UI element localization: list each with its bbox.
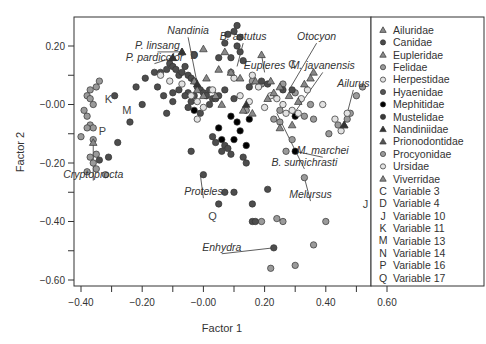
legend-label: Canidae	[393, 36, 432, 48]
annotation-label: Eupleres	[244, 59, 286, 71]
scatter-chart: 0.20−0.00−0.20−0.40−0.60 −0.40−0.20−0.00…	[0, 0, 486, 344]
circle-marker-icon	[277, 107, 283, 113]
circle-marker-icon	[182, 93, 188, 99]
circle-marker-icon	[335, 122, 341, 128]
variable-letter-j: J	[363, 198, 369, 210]
circle-marker-icon	[240, 154, 246, 160]
y-axis-title: Factor 2	[14, 132, 26, 172]
circle-marker-icon	[200, 172, 206, 178]
legend-label: Variable 3	[393, 185, 440, 197]
variable-letter-q: Q	[208, 210, 217, 222]
y-tick-label: −0.20	[40, 158, 66, 169]
open-circle-marker-icon	[231, 75, 237, 81]
circle-marker-icon	[353, 93, 359, 99]
circle-marker-icon	[225, 145, 231, 151]
circle-marker-icon	[249, 201, 255, 207]
y-tick-label: −0.00	[40, 99, 66, 110]
circle-marker-icon	[163, 110, 169, 116]
open-circle-marker-icon	[194, 116, 200, 122]
x-tick-label: −0.20	[130, 297, 156, 308]
legend-letter-marker: K	[379, 222, 386, 234]
circle-marker-icon	[380, 40, 385, 45]
legend-letter-marker: J	[380, 210, 385, 222]
open-circle-marker-icon	[274, 95, 280, 101]
circle-marker-icon	[163, 66, 169, 72]
circle-marker-icon	[231, 189, 237, 195]
open-circle-marker-icon	[283, 110, 289, 116]
legend-label: Variable 13	[393, 235, 446, 247]
legend-label: Variable 14	[393, 247, 446, 259]
circle-marker-icon	[234, 22, 240, 28]
x-tick-label: 0.20	[255, 297, 275, 308]
circle-marker-icon	[274, 215, 280, 221]
legend-label: Variable 17	[393, 272, 446, 284]
legend-label: Mephitidae	[393, 98, 445, 110]
circle-marker-icon	[197, 110, 203, 116]
circle-marker-icon	[234, 43, 240, 49]
annotation-label: M. javanensis	[291, 59, 356, 71]
circle-marker-icon	[206, 101, 212, 107]
legend-label: Ailuridae	[393, 24, 434, 36]
triangle-marker-icon	[288, 121, 296, 128]
annotation-label: P. pardicolor	[126, 51, 184, 63]
circle-marker-icon	[90, 160, 96, 166]
circle-marker-icon	[252, 218, 258, 224]
circle-marker-icon	[301, 113, 307, 119]
circle-marker-icon	[237, 128, 243, 134]
circle-marker-icon	[84, 113, 90, 119]
legend-item: Prionodontidae	[380, 135, 464, 147]
circle-marker-icon	[258, 78, 264, 84]
annotation-label: Melursus	[289, 188, 332, 200]
legend-label: Variable 10	[393, 210, 446, 222]
circle-marker-icon	[170, 98, 176, 104]
x-axis-title: Factor 1	[202, 322, 242, 334]
circle-marker-icon	[96, 78, 102, 84]
circle-marker-icon	[380, 114, 385, 119]
open-circle-marker-icon	[188, 93, 194, 99]
legend-letter-marker: M	[379, 234, 388, 246]
open-circle-marker-icon	[209, 87, 215, 93]
annotation-label: Otocyon	[297, 30, 336, 42]
circle-marker-icon	[243, 142, 249, 148]
annotation-label: Proteles	[184, 185, 223, 197]
open-circle-marker-icon	[320, 101, 326, 107]
x-axis: −0.40−0.20−0.000.200.400.60	[68, 286, 397, 308]
circle-marker-icon	[115, 139, 121, 145]
open-circle-marker-icon	[338, 128, 344, 134]
circle-marker-icon	[246, 84, 252, 90]
triangle-marker-icon	[215, 66, 223, 73]
circle-marker-icon	[93, 84, 99, 90]
circle-marker-icon	[87, 87, 93, 93]
circle-marker-icon	[326, 131, 332, 137]
open-circle-marker-icon	[261, 104, 267, 110]
circle-marker-icon	[323, 218, 329, 224]
circle-marker-icon	[283, 148, 289, 154]
open-circle-marker-icon	[255, 84, 261, 90]
circle-marker-icon	[173, 66, 179, 72]
x-tick-label: 0.60	[377, 297, 397, 308]
circle-marker-icon	[307, 101, 313, 107]
circle-marker-icon	[380, 89, 385, 94]
circle-marker-icon	[139, 101, 145, 107]
circle-marker-icon	[96, 157, 102, 163]
circle-marker-icon	[133, 84, 139, 90]
open-circle-marker-icon	[304, 87, 310, 93]
open-circle-marker-icon	[332, 116, 338, 122]
circle-marker-icon	[90, 101, 96, 107]
circle-marker-icon	[264, 186, 270, 192]
circle-marker-icon	[280, 218, 286, 224]
circle-marker-icon	[216, 201, 222, 207]
circle-marker-icon	[216, 125, 222, 131]
circle-marker-icon	[228, 55, 234, 61]
circle-marker-icon	[289, 136, 295, 142]
open-circle-marker-icon	[295, 110, 301, 116]
x-tick-label: −0.40	[68, 297, 94, 308]
x-tick-label: −0.00	[191, 297, 217, 308]
annotation-label: Enhydra	[202, 241, 241, 253]
legend-letter-marker: C	[379, 185, 387, 197]
y-tick-label: −0.40	[40, 216, 66, 227]
circle-marker-icon	[380, 65, 385, 70]
circle-marker-icon	[87, 95, 93, 101]
legend-label: Eupleridae	[393, 49, 443, 61]
variable-letter-m: M	[122, 104, 131, 116]
